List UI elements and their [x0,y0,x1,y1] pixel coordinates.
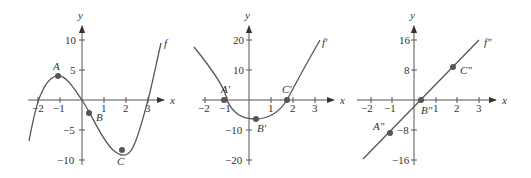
point-label-A-double-prime: A″ [372,120,385,132]
x-axis-label: x [339,94,345,106]
x-tick-label: −2 [198,102,210,114]
curve-label-f-double-prime: f″ [484,36,492,48]
y-tick-label: 10 [233,64,245,76]
graph-f-prime: x y −2 −1 1 2 3 20 10 −10 −20 f′ A′ [194,9,345,166]
point-C [119,147,125,153]
x-axis-label: x [169,94,175,106]
curve-f [29,43,161,155]
x-tick-label: 3 [312,102,318,114]
point-label-B-double-prime: B″ [421,104,433,116]
y-axis-label: y [77,9,83,21]
point-label-A-prime: A′ [220,83,231,95]
x-tick-label: 1 [268,102,274,114]
y-tick-label: −10 [57,154,75,166]
point-label-A: A [52,60,60,72]
y-tick-label: −8 [397,124,409,136]
point-label-C: C [117,155,125,167]
point-label-B-prime: B′ [257,122,267,134]
y-axis-label: y [409,9,415,21]
y-axis-label: y [244,9,250,21]
point-A-double-prime [387,130,393,136]
point-label-C-double-prime: C″ [460,64,472,76]
point-B-double-prime [418,97,424,103]
x-tick-label: 2 [290,102,296,114]
y-tick-label: −5 [63,124,75,136]
graphs-figure: x y −2 −1 1 2 3 10 5 −5 −10 f [0,0,531,178]
y-tick-label: 20 [233,34,245,46]
x-tick-label: 3 [476,102,482,114]
y-tick-label: −10 [225,124,243,136]
curve-label-f: f [164,37,169,49]
point-label-B: B [96,111,103,123]
point-label-C-prime: C′ [282,83,292,95]
point-B [86,110,92,116]
y-tick-label: −16 [392,154,410,166]
point-A [55,73,61,79]
y-tick-label: 8 [404,64,410,76]
curve-label-f-prime: f′ [322,36,328,48]
x-tick-label: 2 [454,102,460,114]
x-tick-label: 1 [433,102,439,114]
y-tick-label: 16 [399,34,411,46]
graph-f: x y −2 −1 1 2 3 10 5 −5 −10 f [28,9,175,167]
y-tick-label: −20 [225,154,243,166]
graph-f-double-prime: x y −2 −1 1 2 3 16 8 −8 −16 f″ A″ [357,9,507,166]
point-C-double-prime [450,64,456,70]
x-tick-label: −1 [384,102,396,114]
x-axis-label: x [501,94,507,106]
y-tick-label: 10 [65,34,77,46]
x-tick-label: −2 [361,102,373,114]
y-tick-label: 5 [70,64,76,76]
x-tick-label: 2 [123,102,129,114]
point-C-prime [284,97,290,103]
point-A-prime [221,97,227,103]
x-tick-label: −1 [53,102,65,114]
curve-f-prime [194,40,320,119]
